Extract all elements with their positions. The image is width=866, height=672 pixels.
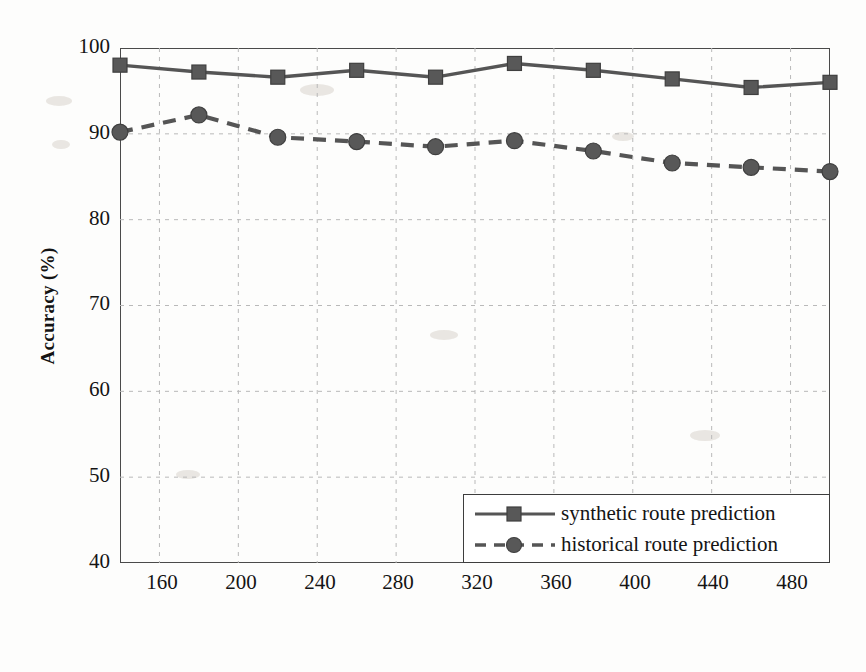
- legend-label: historical route prediction: [557, 532, 778, 557]
- chart-figure: Accuracy (%) 100 90 80 70 60 50 40 160 2…: [0, 0, 866, 672]
- y-tick-label: 70: [52, 293, 110, 314]
- data-point-square: [744, 80, 758, 94]
- legend-item-historical: historical route prediction: [464, 529, 829, 560]
- data-point-square: [823, 75, 837, 89]
- data-point-circle: [270, 129, 286, 145]
- y-tick-label: 90: [52, 122, 110, 143]
- legend-swatch-dashed-circle: [473, 534, 557, 556]
- y-tick-label: 100: [52, 36, 110, 57]
- x-tick-label: 200: [206, 572, 276, 593]
- data-point-circle: [822, 164, 838, 180]
- data-point-square: [665, 72, 679, 86]
- x-tick-label: 400: [600, 572, 670, 593]
- x-tick-label: 160: [127, 572, 197, 593]
- y-tick-label: 40: [52, 551, 110, 572]
- data-point-circle: [349, 134, 365, 150]
- legend-label: synthetic route prediction: [557, 501, 776, 526]
- x-tick-label: 240: [285, 572, 355, 593]
- data-point-square: [507, 56, 521, 70]
- x-tick-label: 320: [442, 572, 512, 593]
- data-point-square: [429, 70, 443, 84]
- x-tick-label: 280: [363, 572, 433, 593]
- data-point-square: [586, 63, 600, 77]
- legend-item-synthetic: synthetic route prediction: [464, 498, 829, 529]
- data-point-circle: [585, 143, 601, 159]
- data-point-square: [350, 63, 364, 77]
- y-tick-label: 80: [52, 208, 110, 229]
- data-point-square: [113, 58, 127, 72]
- x-tick-label: 360: [521, 572, 591, 593]
- x-tick-labels: 160 200 240 280 320 360 400 440 480: [0, 572, 866, 606]
- x-tick-label: 480: [757, 572, 827, 593]
- data-point-circle: [743, 159, 759, 175]
- series-layer: [112, 56, 838, 179]
- legend-swatch-solid-square: [473, 503, 557, 525]
- data-point-circle: [428, 139, 444, 155]
- chart-legend: synthetic route prediction historical ro…: [463, 494, 830, 563]
- data-point-circle: [191, 107, 207, 123]
- grid-lines: [120, 48, 830, 563]
- data-point-square: [192, 65, 206, 79]
- y-tick-label: 60: [52, 379, 110, 400]
- data-point-circle: [664, 155, 680, 171]
- plot-canvas: [120, 48, 830, 563]
- x-tick-label: 440: [678, 572, 748, 593]
- data-point-circle: [506, 133, 522, 149]
- y-tick-label: 50: [52, 465, 110, 486]
- data-point-circle: [112, 124, 128, 140]
- data-point-square: [271, 70, 285, 84]
